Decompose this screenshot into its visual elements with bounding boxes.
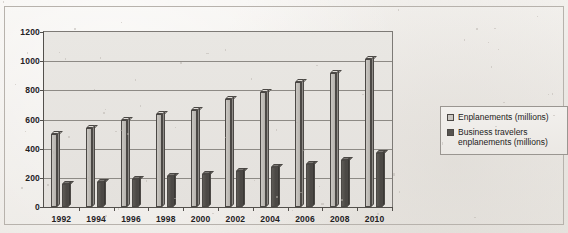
scan-speck: [121, 22, 123, 23]
bar-enplanements: [365, 56, 374, 207]
bar-side-face: [173, 173, 176, 207]
bar-front-face: [86, 128, 92, 207]
bar-enplanements: [86, 125, 95, 207]
bar-enplanements: [156, 111, 165, 207]
x-axis-tick-label: 1996: [121, 214, 141, 224]
scan-speck: [105, 109, 106, 110]
scan-speck: [292, 210, 293, 211]
scan-speck: [399, 191, 400, 193]
legend-label: Enplanements (millions): [458, 112, 549, 123]
light-gray-swatch-icon: [447, 114, 454, 121]
scan-speck: [464, 39, 465, 41]
bar-front-face: [236, 171, 242, 207]
bar-side-face: [301, 79, 304, 207]
bar-side-face: [242, 168, 245, 207]
bar-business-travelers: [236, 168, 245, 207]
scan-speck: [100, 57, 102, 59]
scan-speck: [501, 132, 503, 135]
bar-business-travelers: [202, 171, 211, 207]
bar-side-face: [231, 96, 234, 207]
scan-speck: [300, 192, 302, 193]
legend-item-business-travelers: Business travelers enplanements (million…: [447, 127, 562, 148]
scan-speck: [296, 122, 298, 123]
bar-business-travelers: [376, 150, 385, 207]
scan-speck: [398, 9, 399, 11]
legend-item-enplanements: Enplanements (millions): [447, 112, 562, 123]
scan-speck: [146, 180, 148, 181]
scan-speck: [225, 137, 227, 138]
x-axis-tick-label: 2002: [226, 214, 246, 224]
bar-groups: 1992199419961998200020022004200620082010: [44, 32, 392, 207]
bar-group: [322, 32, 357, 207]
scan-speck: [167, 217, 169, 218]
scan-speck: [251, 78, 253, 80]
x-axis-tick-label: 1998: [156, 214, 176, 224]
x-axis-tick-mark: [392, 207, 393, 211]
scan-speck: [25, 131, 26, 132]
bar-group: [148, 32, 183, 207]
bar-side-face: [382, 150, 385, 207]
scan-speck: [21, 187, 23, 189]
scan-speck: [118, 208, 120, 210]
x-axis-tick-label: 1994: [86, 214, 106, 224]
scan-speck: [362, 94, 364, 95]
bar-side-face: [208, 171, 211, 207]
x-axis-tick-mark: [357, 207, 358, 211]
scan-speck: [552, 93, 553, 95]
bar-enplanements: [51, 131, 60, 207]
scan-speck: [47, 184, 49, 186]
bar-front-face: [271, 167, 277, 207]
scan-speck: [321, 203, 323, 205]
scan-speck: [65, 58, 66, 60]
bar-side-face: [103, 179, 106, 207]
scan-speck: [491, 66, 492, 68]
scan-speck: [53, 151, 54, 154]
scan-speck: [56, 219, 58, 221]
bar-business-travelers: [97, 179, 106, 207]
scan-speck: [393, 173, 394, 175]
scan-speck: [104, 217, 106, 218]
scan-speck: [553, 115, 555, 116]
scan-speck: [377, 213, 379, 215]
scan-speck: [103, 112, 105, 114]
bar-front-face: [132, 179, 138, 207]
bar-business-travelers: [167, 173, 176, 207]
bar-enplanements: [225, 96, 234, 207]
x-axis-tick-label: 1992: [52, 214, 72, 224]
bar-business-travelers: [132, 176, 141, 207]
plot-area: 020040060080010001200 199219941996199820…: [43, 31, 393, 208]
scan-speck: [212, 213, 214, 215]
chart-legend: Enplanements (millions) Business travele…: [440, 106, 568, 155]
bar-business-travelers: [306, 161, 315, 207]
bar-side-face: [197, 107, 200, 207]
bar-side-face: [162, 111, 165, 207]
scan-speck: [32, 60, 33, 62]
scan-speck: [27, 52, 28, 54]
y-axis-tick-label: 0: [35, 202, 40, 212]
y-axis-tick-label: 1200: [20, 27, 40, 37]
x-axis-tick-label: 2010: [365, 214, 385, 224]
scan-speck: [488, 42, 490, 44]
x-axis-tick-label: 2000: [191, 214, 211, 224]
scan-speck: [503, 102, 505, 103]
bar-group: [253, 32, 288, 207]
bar-front-face: [97, 182, 103, 207]
bar-front-face: [306, 164, 312, 207]
x-axis-tick-label: 2004: [260, 214, 280, 224]
scan-speck: [476, 28, 478, 29]
scan-speck: [537, 16, 538, 17]
bar-side-face: [57, 131, 60, 207]
x-axis-tick-mark: [253, 207, 254, 211]
bar-front-face: [191, 110, 197, 207]
x-axis-tick-mark: [114, 207, 115, 211]
bar-front-face: [62, 184, 68, 207]
bar-group: [357, 32, 392, 207]
bar-side-face: [92, 125, 95, 207]
scan-speck: [59, 52, 60, 53]
bar-enplanements: [191, 107, 200, 207]
x-axis-tick-mark: [148, 207, 149, 211]
bar-group: [79, 32, 114, 207]
scan-speck: [498, 49, 499, 50]
y-axis-tick-label: 1000: [20, 56, 40, 66]
scan-speck: [474, 217, 476, 219]
